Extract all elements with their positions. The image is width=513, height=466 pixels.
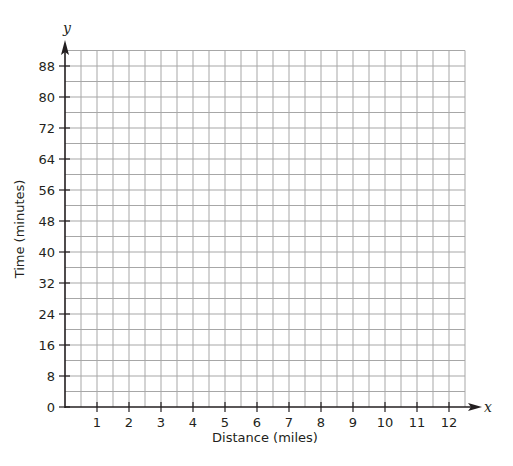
x-tick-label: 1 xyxy=(93,415,101,430)
x-tick-label: 11 xyxy=(409,415,426,430)
y-tick-label: 0 xyxy=(47,400,55,415)
axes xyxy=(61,40,482,411)
y-tick-label: 80 xyxy=(38,90,55,105)
x-tick-label: 10 xyxy=(377,415,394,430)
x-tick-label: 8 xyxy=(317,415,325,430)
x-axis-title: Distance (miles) xyxy=(212,430,318,445)
y-tick-label: 48 xyxy=(38,214,55,229)
coordinate-grid-chart: 123456789101112 0816243240485664728088 x… xyxy=(0,0,513,466)
y-tick-label: 88 xyxy=(38,59,55,74)
y-tick-label: 40 xyxy=(38,245,55,260)
y-tick-label: 64 xyxy=(38,152,55,167)
y-tick-label: 8 xyxy=(47,369,55,384)
y-tick-label: 72 xyxy=(38,121,55,136)
y-tick-label: 24 xyxy=(38,307,55,322)
grid-lines xyxy=(65,51,465,408)
y-tick-label: 32 xyxy=(38,276,55,291)
x-tick-label: 9 xyxy=(349,415,357,430)
x-tick-label: 7 xyxy=(285,415,293,430)
x-tick-label: 3 xyxy=(157,415,165,430)
x-axis-variable-label: x xyxy=(484,399,492,415)
x-tick-label: 6 xyxy=(253,415,261,430)
x-tick-label: 2 xyxy=(125,415,133,430)
y-axis-title: Time (minutes) xyxy=(12,180,27,280)
y-tick-label: 56 xyxy=(38,183,55,198)
x-tick-label: 5 xyxy=(221,415,229,430)
y-axis-variable-label: y xyxy=(62,20,72,36)
y-tick-label: 16 xyxy=(38,338,55,353)
x-tick-label: 12 xyxy=(441,415,458,430)
x-tick-label: 4 xyxy=(189,415,197,430)
